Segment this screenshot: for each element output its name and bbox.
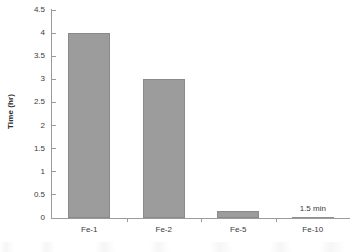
y-axis-title: Time (hr): [2, 0, 18, 222]
y-axis-tick-mark: [52, 125, 56, 126]
y-axis-tick-mark: [52, 79, 56, 80]
y-axis-tick-mark: [52, 33, 56, 34]
scan-noise: [0, 242, 359, 252]
y-axis-tick-label: 4: [41, 27, 45, 38]
y-axis-tick-mark: [52, 218, 56, 219]
x-axis-tick-mark: [127, 218, 128, 222]
x-axis-tick-mark: [276, 218, 277, 222]
x-axis-label-fe-10: Fe-10: [283, 224, 343, 235]
y-axis-tick-label: 2.5: [34, 96, 45, 107]
y-axis-tick-mark: [52, 56, 56, 57]
bar-fe-5: [217, 211, 259, 218]
y-axis-tick-label: 3: [41, 73, 45, 84]
y-axis-tick-mark: [52, 148, 56, 149]
y-axis-tick-label: 2: [41, 120, 45, 131]
y-axis-tick-label: 3.5: [34, 50, 45, 61]
bar-chart: Time (hr) 00.511.522.533.544.5 Fe-1Fe-2F…: [0, 0, 359, 252]
bar-fe-10: [292, 217, 334, 219]
y-axis-tick-mark: [52, 10, 56, 11]
y-axis-tick-label: 4.5: [34, 4, 45, 15]
y-axis-tick-mark: [52, 171, 56, 172]
bar-fe-1: [68, 33, 110, 218]
plot-area: 00.511.522.533.544.5: [52, 10, 350, 218]
bar-annotation-fe-10: 1.5 min: [283, 204, 343, 214]
y-axis-tick-mark: [52, 194, 56, 195]
bar-fe-2: [143, 79, 185, 218]
y-axis-title-label: Time (hr): [6, 94, 15, 129]
y-axis-tick-label: 0: [41, 212, 45, 223]
x-axis-label-fe-1: Fe-1: [59, 224, 119, 235]
y-axis-tick-label: 1: [41, 166, 45, 177]
x-axis-label-fe-5: Fe-5: [208, 224, 268, 235]
y-axis-tick-label: 0.5: [34, 189, 45, 200]
y-axis-tick-label: 1.5: [34, 143, 45, 154]
y-axis-tick-mark: [52, 102, 56, 103]
x-axis-tick-mark: [201, 218, 202, 222]
x-axis-label-fe-2: Fe-2: [134, 224, 194, 235]
